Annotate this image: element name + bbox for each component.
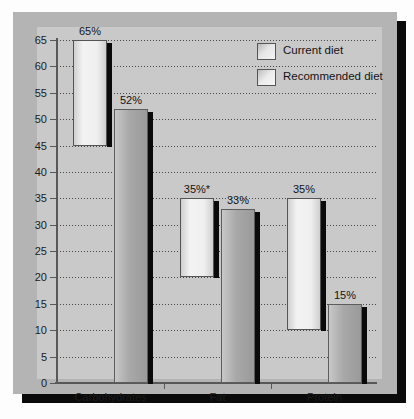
value-axis-label: 50 [35,114,47,125]
bar-body [287,198,321,330]
category-axis-tick [164,383,165,389]
value-axis-label: 35 [35,193,47,204]
value-axis-label: 30 [35,219,47,230]
category-axis-label: Fat [210,392,226,403]
value-axis-label: 65 [35,35,47,46]
legend-item[interactable]: Current diet [257,40,385,62]
gridline [57,198,378,199]
bar[interactable]: 15% [328,304,362,383]
value-axis-tick [50,66,57,67]
bar-body [180,198,214,277]
bar-body [73,40,107,146]
bar[interactable]: 35% [287,198,321,330]
bar-shadow [148,112,153,384]
legend-item[interactable]: Recommended diet [257,66,385,88]
bar-shadow [362,307,367,384]
value-axis-tick [50,251,57,252]
bar-value-label: 35%* [184,184,210,195]
bar-body [328,304,362,383]
bar-shadow [214,201,219,278]
bar-body [221,209,255,383]
bar-value-label: 35% [293,184,315,195]
value-axis-tick [50,198,57,199]
value-axis-tick [50,330,57,331]
value-axis-label: 55 [35,87,47,98]
bar-value-label: 33% [227,195,249,206]
value-axis-tick [50,172,57,173]
value-axis-tick [50,357,57,358]
category-axis-tick [271,383,272,389]
bar[interactable]: 33% [221,209,255,383]
bar-value-label: 52% [120,95,142,106]
bar-shadow [321,201,326,331]
bar-shadow [107,43,112,147]
value-axis-tick [50,277,57,278]
chart-legend: Current dietRecommended diet [257,40,385,92]
value-axis-line [56,38,58,384]
swatch-current-diet [257,43,276,60]
legend-swatch-body [257,43,276,60]
value-axis-tick [50,383,57,384]
legend-item-label: Current diet [283,45,343,57]
value-axis-label: 5 [41,351,47,362]
bar-shadow [255,212,260,384]
gridline [57,146,378,147]
bar-value-label: 15% [334,290,356,301]
value-axis-tick [50,40,57,41]
value-axis-label: 40 [35,166,47,177]
bar-value-label: 65% [79,26,101,37]
value-axis-label: 10 [35,325,47,336]
value-axis-label: 25 [35,246,47,257]
figure-frame: 65605550454035302520151050 Carbohydrates… [13,12,397,394]
bar[interactable]: 35%* [180,198,214,277]
value-axis-label: 0 [41,378,47,389]
value-axis-label: 20 [35,272,47,283]
value-axis-tick [50,146,57,147]
value-axis-label: 45 [35,140,47,151]
gridline [57,172,378,173]
value-axis-tick [50,119,57,120]
legend-item-label: Recommended diet [283,71,383,83]
bar[interactable]: 65% [73,40,107,146]
value-axis-tick [50,304,57,305]
category-axis-label: Protein [307,392,342,403]
value-axis-label: 15 [35,298,47,309]
swatch-recommended-diet [257,69,276,86]
legend-swatch-body [257,69,276,86]
value-axis-tick [50,93,57,94]
value-axis-label: 60 [35,61,47,72]
value-axis-tick [50,225,57,226]
category-axis-label: Carbohydrates [74,392,146,403]
bar-body [114,109,148,383]
bar[interactable]: 52% [114,109,148,383]
figure-root: 65605550454035302520151050 Carbohydrates… [0,0,414,419]
